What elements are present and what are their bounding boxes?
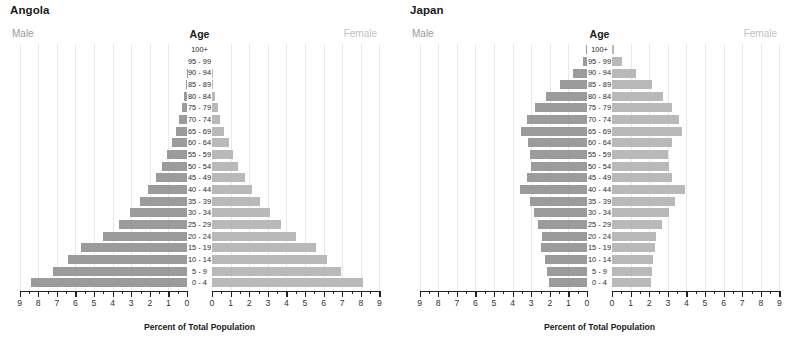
pyramid-row: 85 - 89 xyxy=(400,79,799,91)
pyramid-row: 35 - 39 xyxy=(400,196,799,208)
plot-area-japan: 100+95 - 9990 - 9485 - 8980 - 8475 - 797… xyxy=(400,44,799,296)
axis-tick-minor xyxy=(677,291,678,294)
pyramid-row: 65 - 69 xyxy=(0,126,399,138)
age-group-label: 30 - 34 xyxy=(400,207,799,218)
legend-female-japan: Female xyxy=(744,28,777,39)
pyramid-row: 95 - 99 xyxy=(400,56,799,68)
pyramid-row: 55 - 59 xyxy=(0,149,399,161)
age-group-label: 45 - 49 xyxy=(0,172,399,183)
axis-tick-label: 0 xyxy=(610,298,615,308)
pyramid-row: 15 - 19 xyxy=(400,242,799,254)
axis-tick-major xyxy=(761,291,762,297)
age-group-label: 75 - 79 xyxy=(0,102,399,113)
pyramid-row: 20 - 24 xyxy=(0,231,399,243)
pyramid-row: 70 - 74 xyxy=(0,114,399,126)
age-group-label: 70 - 74 xyxy=(400,114,799,125)
age-group-label: 85 - 89 xyxy=(400,79,799,90)
axis-tick-label: 9 xyxy=(377,298,382,308)
age-group-label: 40 - 44 xyxy=(0,184,399,195)
axis-tick-minor xyxy=(221,291,222,294)
pyramid-row: 60 - 64 xyxy=(400,137,799,149)
pyramid-row: 20 - 24 xyxy=(400,231,799,243)
pyramid-row: 10 - 14 xyxy=(400,254,799,266)
age-group-label: 35 - 39 xyxy=(400,196,799,207)
pyramid-row: 75 - 79 xyxy=(400,102,799,114)
axis-tick-major xyxy=(742,291,743,297)
axis-tick-major xyxy=(324,291,325,297)
axis-title-angola: Percent of Total Population xyxy=(0,322,399,332)
axis-tick-label: 9 xyxy=(777,298,782,308)
axis-tick-major xyxy=(286,291,287,297)
axis-tick-minor xyxy=(277,291,278,294)
pyramid-row: 30 - 34 xyxy=(400,207,799,219)
pyramid-row: 80 - 84 xyxy=(0,91,399,103)
age-group-label: 75 - 79 xyxy=(400,102,799,113)
axis-tick-label: 5 xyxy=(303,298,308,308)
age-group-label: 45 - 49 xyxy=(400,172,799,183)
pyramid-row: 85 - 89 xyxy=(0,79,399,91)
age-group-label: 50 - 54 xyxy=(0,161,399,172)
panel-title-angola: Angola xyxy=(10,4,50,16)
pyramid-row: 95 - 99 xyxy=(0,56,399,68)
axis-tick-minor xyxy=(696,291,697,294)
age-group-label: 70 - 74 xyxy=(0,114,399,125)
axis-tick-major xyxy=(705,291,706,297)
axis-tick-label: 6 xyxy=(321,298,326,308)
axis-tick-minor xyxy=(370,291,371,294)
age-group-label: 60 - 64 xyxy=(0,137,399,148)
axis-tick-minor xyxy=(240,291,241,294)
axis-tick-label: 8 xyxy=(758,298,763,308)
age-group-label: 55 - 59 xyxy=(0,149,399,160)
panel-angola: Angola Male Age Female 100+95 - 9990 - 9… xyxy=(0,0,399,342)
pyramid-row: 100+ xyxy=(0,44,399,56)
age-group-label: 35 - 39 xyxy=(0,196,399,207)
pyramid-row: 25 - 29 xyxy=(0,219,399,231)
x-axis-right: 0123456789 xyxy=(400,291,799,311)
age-group-label: 95 - 99 xyxy=(0,56,399,67)
age-group-label: 10 - 14 xyxy=(0,254,399,265)
age-group-label: 90 - 94 xyxy=(400,67,799,78)
age-group-label: 65 - 69 xyxy=(0,126,399,137)
age-group-label: 80 - 84 xyxy=(400,91,799,102)
age-group-label: 0 - 4 xyxy=(0,277,399,288)
age-group-label: 20 - 24 xyxy=(0,231,399,242)
axis-tick-minor xyxy=(770,291,771,294)
axis-tick-minor xyxy=(333,291,334,294)
age-group-label: 15 - 19 xyxy=(0,242,399,253)
axis-tick-major xyxy=(612,291,613,297)
age-group-label: 30 - 34 xyxy=(0,207,399,218)
pyramid-row: 0 - 4 xyxy=(400,277,799,289)
axis-tick-label: 4 xyxy=(284,298,289,308)
axis-tick-major xyxy=(249,291,250,297)
axis-tick-major xyxy=(342,291,343,297)
axis-tick-minor xyxy=(259,291,260,294)
pyramid-row: 0 - 4 xyxy=(0,277,399,289)
pyramid-row: 15 - 19 xyxy=(0,242,399,254)
axis-tick-major xyxy=(379,291,380,297)
axis-tick-label: 1 xyxy=(628,298,633,308)
age-group-label: 95 - 99 xyxy=(400,56,799,67)
pyramid-row: 70 - 74 xyxy=(400,114,799,126)
axis-tick-label: 6 xyxy=(721,298,726,308)
axis-tick-minor xyxy=(733,291,734,294)
pyramid-row: 45 - 49 xyxy=(0,172,399,184)
pyramid-row: 50 - 54 xyxy=(400,161,799,173)
age-group-label: 90 - 94 xyxy=(0,67,399,78)
pyramid-row: 50 - 54 xyxy=(0,161,399,173)
pyramid-row: 35 - 39 xyxy=(0,196,399,208)
age-group-label: 50 - 54 xyxy=(400,161,799,172)
age-group-label: 60 - 64 xyxy=(400,137,799,148)
pyramid-row: 5 - 9 xyxy=(0,266,399,278)
age-group-label: 85 - 89 xyxy=(0,79,399,90)
panel-japan: Japan Male Age Female 100+95 - 9990 - 94… xyxy=(400,0,799,342)
panel-title-japan: Japan xyxy=(410,4,444,16)
plot-area-angola: 100+95 - 9990 - 9485 - 8980 - 8475 - 797… xyxy=(0,44,399,296)
axis-tick-major xyxy=(686,291,687,297)
pyramid-row: 60 - 64 xyxy=(0,137,399,149)
axis-tick-minor xyxy=(621,291,622,294)
axis-tick-label: 2 xyxy=(247,298,252,308)
axis-tick-major xyxy=(212,291,213,297)
age-group-label: 10 - 14 xyxy=(400,254,799,265)
axis-tick-major xyxy=(231,291,232,297)
age-group-label: 40 - 44 xyxy=(400,184,799,195)
